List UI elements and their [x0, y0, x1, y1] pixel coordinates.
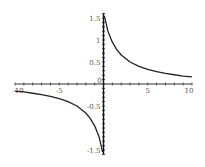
y-tick-label: 0.5	[89, 59, 100, 67]
y-tick-label: -1.5	[87, 147, 101, 155]
x-tick-label: -5	[56, 87, 63, 95]
chart-plot: -10-505101.510.5-0.5-1.5	[0, 0, 205, 167]
y-tick-label: 1.5	[89, 15, 100, 23]
y-tick-label: -0.5	[87, 103, 101, 111]
curve-line	[104, 16, 192, 77]
x-tick-label: 5	[146, 87, 150, 95]
y-tick-label: 1	[96, 37, 100, 45]
x-tick-label: 0	[97, 77, 101, 85]
x-tick-label: 10	[185, 87, 194, 95]
curve-line	[15, 91, 103, 152]
